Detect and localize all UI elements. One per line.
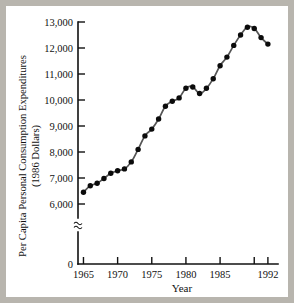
y-axis-title-line1: Per Capita Personal Consumption Expendit…: [17, 55, 28, 257]
data-point-1990: [252, 26, 257, 31]
data-point-1976: [156, 116, 161, 121]
data-point-1973: [135, 147, 140, 152]
chart-canvas: 6,0007,0008,0009,00010,00011,00012,00013…: [6, 6, 288, 297]
y-tick-label-7000: 7,000: [49, 173, 73, 184]
data-point-1968: [101, 176, 106, 181]
y-tick-label-6000: 6,000: [49, 199, 73, 210]
line-chart-figure: 6,0007,0008,0009,00010,00011,00012,00013…: [6, 6, 288, 297]
data-point-1980: [183, 86, 188, 91]
screenshot-root: 6,0007,0008,0009,00010,00011,00012,00013…: [0, 0, 294, 303]
data-point-1982: [197, 91, 202, 96]
data-point-1981: [190, 84, 195, 89]
data-point-1992: [265, 41, 270, 46]
axis-break-squiggle-top: [74, 222, 82, 225]
x-tick-label-1985: 1985: [210, 269, 231, 280]
data-point-1989: [245, 25, 250, 30]
x-tick-label-1980: 1980: [175, 269, 196, 280]
x-tick-label-1965: 1965: [73, 269, 94, 280]
axis-break-icon: [74, 222, 82, 229]
data-point-1985: [217, 63, 222, 68]
x-axis-title: Year: [172, 282, 193, 294]
data-point-1971: [122, 166, 127, 171]
data-point-1965: [81, 190, 86, 195]
y-tick-label-11000: 11,000: [45, 69, 74, 80]
axis-break-squiggle-bottom: [74, 226, 82, 229]
x-tick-label-1992: 1992: [257, 269, 278, 280]
x-axis-ticks: [83, 257, 267, 264]
y-axis-ticks: [78, 22, 85, 204]
data-point-1970: [115, 168, 120, 173]
data-point-1977: [163, 104, 168, 109]
y-tick-label-10000: 10,000: [44, 95, 73, 106]
y-axis-tick-labels: 6,0007,0008,0009,00010,00011,00012,00013…: [44, 17, 73, 270]
x-axis-tick-labels: 196519701975198019851992: [73, 269, 278, 280]
y-tick-label-13000: 13,000: [44, 17, 73, 28]
x-tick-label-1970: 1970: [107, 269, 128, 280]
data-point-1983: [204, 86, 209, 91]
y-tick-label-8000: 8,000: [49, 147, 73, 158]
y-tick-label-12000: 12,000: [44, 43, 73, 54]
x-tick-label-1975: 1975: [141, 269, 162, 280]
figure-paper: 6,0007,0008,0009,00010,00011,00012,00013…: [6, 6, 288, 297]
data-point-1966: [88, 183, 93, 188]
data-point-1987: [231, 43, 236, 48]
data-point-1984: [211, 76, 216, 81]
data-point-1972: [129, 159, 134, 164]
series-line-expenditures: [83, 26, 267, 192]
data-point-1978: [170, 99, 175, 104]
data-point-1967: [94, 181, 99, 186]
data-point-1988: [238, 32, 243, 37]
data-point-1986: [224, 54, 229, 59]
data-point-1979: [176, 95, 181, 100]
data-point-1975: [149, 126, 154, 131]
data-point-1974: [142, 133, 147, 138]
series-markers-expenditures: [81, 25, 271, 196]
y-axis-title-line2: (1986 Dollars): [30, 124, 42, 187]
data-point-1991: [258, 35, 263, 40]
y-tick-label-9000: 9,000: [49, 121, 73, 132]
data-point-1969: [108, 171, 113, 176]
